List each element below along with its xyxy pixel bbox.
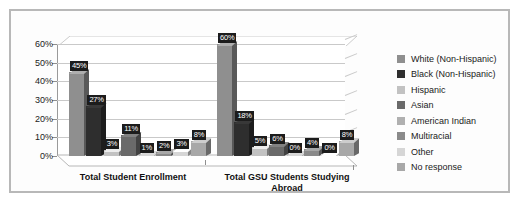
legend-item-label: No response (411, 162, 462, 172)
bar[interactable] (321, 154, 336, 156)
y-tick-label: 50% (13, 59, 53, 68)
legend: White (Non-Hispanic)Black (Non-Hispanic)… (397, 51, 517, 175)
plot-area: 60% 50% 40% 30% 20% 10% 0% 45%27%3%11%1%… (57, 34, 357, 167)
legend-item-label: White (Non-Hispanic) (411, 54, 497, 64)
legend-item-label: Hispanic (411, 85, 446, 95)
bar[interactable] (139, 154, 154, 156)
legend-swatch-icon (397, 55, 405, 63)
legend-item-label: American Indian (411, 116, 476, 126)
legend-item[interactable]: Asian (397, 98, 517, 114)
bar[interactable] (252, 147, 267, 156)
legend-item-label: Multiracial (411, 131, 452, 141)
y-tick-label: 20% (13, 115, 53, 124)
legend-item[interactable]: American Indian (397, 113, 517, 129)
legend-item[interactable]: No response (397, 160, 517, 176)
category-label-text-line2: Abroad (271, 183, 303, 193)
bar[interactable] (173, 150, 188, 156)
bar[interactable] (339, 141, 354, 156)
bar-value-label: 0% (322, 143, 336, 153)
bar[interactable] (287, 154, 302, 156)
bar-value-label: 60% (218, 33, 236, 43)
bar-front-face (121, 135, 136, 156)
legend-swatch-icon (397, 70, 405, 78)
x-axis-tick (353, 165, 354, 170)
bar-series-container: 45%27%3%11%1%2%3%8%60%18%5%6%0%4%0%8% (59, 44, 347, 156)
legend-swatch-icon (397, 101, 405, 109)
category-label-text-line1: Total GSU Students Studying (225, 172, 350, 182)
category-label-text: Total Student Enrollment (80, 172, 186, 182)
chart-frame: 60% 50% 40% 30% 20% 10% 0% 45%27%3%11%1%… (9, 9, 510, 193)
y-tick-label: 0% (13, 152, 53, 161)
bar[interactable] (217, 44, 232, 156)
bar-value-label: 18% (235, 111, 253, 121)
bar[interactable] (104, 150, 119, 156)
category-label-enrollment: Total Student Enrollment (58, 172, 208, 183)
bar[interactable] (304, 149, 319, 156)
bar-value-label: 2% (157, 141, 171, 151)
legend-swatch-icon (397, 148, 405, 156)
bar-value-label: 8% (340, 130, 354, 140)
bar[interactable] (86, 106, 101, 156)
legend-item[interactable]: Black (Non-Hispanic) (397, 67, 517, 83)
bar[interactable] (69, 72, 84, 156)
bar-front-face (191, 141, 206, 156)
bar-value-label: 0% (288, 143, 302, 153)
legend-item[interactable]: White (Non-Hispanic) (397, 51, 517, 67)
legend-item[interactable]: Other (397, 144, 517, 160)
legend-item-label: Other (411, 147, 434, 157)
y-tick-label: 30% (13, 96, 53, 105)
chart-page: 60% 50% 40% 30% 20% 10% 0% 45%27%3%11%1%… (0, 0, 521, 209)
y-tick-label: 60% (13, 40, 53, 49)
legend-item[interactable]: Hispanic (397, 82, 517, 98)
bar-front-face (339, 141, 354, 156)
legend-swatch-icon (397, 163, 405, 171)
bar-front-face (69, 72, 84, 156)
bar-front-face (86, 106, 101, 156)
bar-value-label: 45% (70, 61, 88, 71)
bar-front-face (217, 44, 232, 156)
legend-swatch-icon (397, 86, 405, 94)
legend-swatch-icon (397, 132, 405, 140)
bar-value-label: 3% (105, 139, 119, 149)
legend-item-label: Asian (411, 100, 434, 110)
x-axis-tick (205, 160, 206, 165)
y-tick-label: 40% (13, 77, 53, 86)
bar[interactable] (191, 141, 206, 156)
bar[interactable] (156, 152, 171, 156)
bar-value-label: 8% (192, 130, 206, 140)
bar[interactable] (121, 135, 136, 156)
bar-value-label: 5% (253, 136, 267, 146)
bar-value-label: 4% (305, 138, 319, 148)
bar-front-face (234, 122, 249, 156)
legend-swatch-icon (397, 117, 405, 125)
category-label-study-abroad: Total GSU Students Studying Abroad (207, 172, 367, 194)
bar[interactable] (234, 122, 249, 156)
legend-item-label: Black (Non-Hispanic) (411, 69, 496, 79)
bar-value-label: 27% (87, 95, 105, 105)
bar[interactable] (269, 145, 284, 156)
bar-value-label: 1% (140, 143, 154, 153)
y-tick-label: 10% (13, 133, 53, 142)
bar-value-label: 6% (270, 134, 284, 144)
bar-value-label: 3% (174, 139, 188, 149)
legend-item[interactable]: Multiracial (397, 129, 517, 145)
bar-value-label: 11% (122, 124, 140, 134)
